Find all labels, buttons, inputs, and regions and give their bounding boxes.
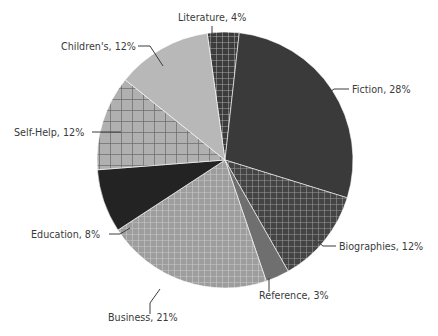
slice-label-education: Education, 8% — [31, 229, 100, 240]
slice-label-fiction: Fiction, 28% — [352, 84, 411, 95]
pie-slices — [97, 32, 353, 288]
slice-label-reference: Reference, 3% — [259, 290, 329, 301]
slice-label-biographies: Biographies, 12% — [339, 241, 423, 252]
pie-chart-svg: Literature, 4%Fiction, 28%Biographies, 1… — [0, 0, 438, 336]
pie-chart-container: Literature, 4%Fiction, 28%Biographies, 1… — [0, 0, 438, 336]
leader-line-business — [150, 289, 160, 314]
slice-label-literature: Literature, 4% — [178, 12, 246, 23]
slice-label-children-s: Children's, 12% — [61, 41, 136, 52]
slice-label-self-help: Self-Help, 12% — [14, 127, 84, 138]
slice-label-business: Business, 21% — [108, 312, 178, 323]
